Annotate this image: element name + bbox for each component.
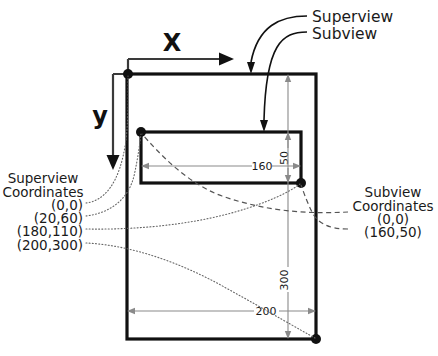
x-axis-arrowhead [219, 53, 234, 66]
subview-callout-arrowhead [260, 120, 268, 132]
y-axis-arrowhead [107, 155, 120, 170]
superview-coordinates-legend: Superview Coordinates (0,0) (20,60) (180… [0, 171, 86, 252]
x-axis-line [128, 59, 219, 74]
superview-bottomright-dot [311, 334, 321, 344]
subview-height-value: 50 [278, 151, 291, 165]
superview-callout-label: Superview [312, 8, 393, 26]
superview-coordinate-3: (200,300) [0, 239, 83, 252]
leader-subview-160-50 [301, 185, 348, 229]
superview-width-value: 200 [256, 305, 277, 318]
subview-width-value: 160 [252, 160, 273, 173]
leader-superview-0-0 [86, 76, 128, 203]
subview-callout-label: Subview [312, 25, 378, 43]
superview-height-value: 300 [278, 270, 291, 291]
subview-legend-heading-1: Subview [348, 185, 438, 199]
subview-coordinate-1: (160,50) [348, 226, 438, 239]
x-axis-label: X [163, 29, 182, 57]
superview-legend-heading-1: Superview [0, 171, 86, 185]
superview-callout-curve [251, 16, 307, 62]
subview-origin-dot [136, 127, 146, 137]
subview-coordinates-legend: Subview Coordinates (0,0) (160,50) [348, 185, 438, 239]
y-axis-label: y [92, 102, 108, 130]
subview-callout-curve [264, 32, 307, 120]
diagram-canvas: X y Superview Subview 160 50 200 300 [0, 0, 438, 356]
superview-origin-dot [123, 69, 133, 79]
superview-callout-arrowhead [247, 62, 255, 74]
leader-superview-180-110 [86, 184, 300, 229]
